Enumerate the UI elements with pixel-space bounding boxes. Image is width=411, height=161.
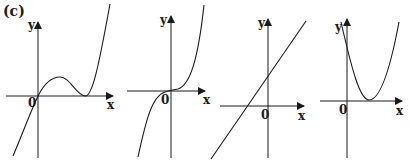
origin-label: 0 <box>28 96 36 110</box>
x-axis-label: x <box>107 98 115 112</box>
x-axis-label: x <box>298 109 306 123</box>
origin-label: 0 <box>261 108 269 122</box>
y-axis-label: y <box>334 20 343 34</box>
y-axis-label: y <box>159 13 168 27</box>
panel-3: y 0 x <box>211 16 306 159</box>
origin-label: 0 <box>339 103 347 117</box>
x-axis-label: x <box>396 104 404 118</box>
origin-label: 0 <box>161 93 169 107</box>
parabola-curve <box>341 22 399 100</box>
panel-1: y 0 x <box>6 4 115 158</box>
x-axis-label: x <box>203 93 211 107</box>
figure-label: (c) <box>3 3 25 19</box>
panel-4: y 0 x <box>320 19 404 158</box>
y-axis-label: y <box>27 18 36 32</box>
straight-line <box>211 21 306 159</box>
y-axis-label: y <box>257 16 266 30</box>
panel-2: y 0 x <box>127 5 211 158</box>
figure-canvas: (c) y 0 x y 0 x y 0 x y 0 x <box>0 0 411 161</box>
